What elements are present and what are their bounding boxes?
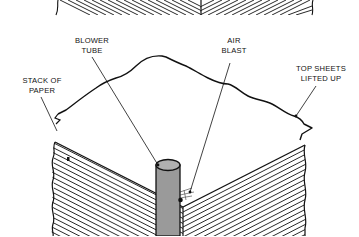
paper-stack-diagram: [0, 0, 359, 236]
label-line: LIFTED UP: [288, 74, 354, 84]
label-line: TOP SHEETS: [288, 64, 354, 74]
label-line: STACK OF: [12, 76, 72, 86]
nozzle-icon: [178, 198, 183, 203]
label-stack-of-paper: STACK OF PAPER: [12, 76, 72, 96]
label-air-blast: AIR BLAST: [216, 36, 252, 56]
label-line: PAPER: [12, 86, 72, 96]
blower-tube: [156, 160, 183, 237]
top-stack-fragment: [56, 0, 313, 15]
label-line: BLOWER: [68, 36, 116, 46]
label-line: AIR: [216, 36, 252, 46]
top-sheet-lifted: [55, 56, 312, 207]
label-blower-tube: BLOWER TUBE: [68, 36, 116, 56]
label-top-sheets-lifted-up: TOP SHEETS LIFTED UP: [288, 64, 354, 84]
label-line: TUBE: [68, 46, 116, 56]
label-line: BLAST: [216, 46, 252, 56]
